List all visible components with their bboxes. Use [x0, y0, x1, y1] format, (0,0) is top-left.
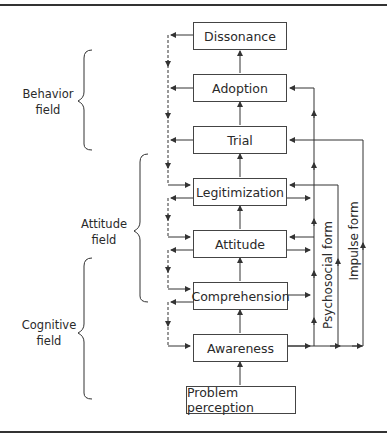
- behavior-field-line2: field: [18, 102, 78, 118]
- attitude-field-line2: field: [76, 232, 132, 248]
- stage-awareness: Awareness: [193, 334, 288, 362]
- impulse-form-label: Impulse form: [347, 201, 363, 281]
- stage-comprehension: Comprehension: [193, 282, 288, 310]
- stage-trial: Trial: [193, 126, 287, 154]
- stage-attitude: Attitude: [193, 230, 287, 258]
- attitude-field-label: Attitude field: [76, 216, 132, 248]
- cognitive-field-line1: Cognitive: [18, 317, 80, 333]
- stage-dissonance: Dissonance: [193, 22, 287, 50]
- cognitive-field-line2: field: [18, 333, 80, 349]
- stage-problem-perception: Problem perception: [186, 386, 296, 414]
- psychosocial-form-label: Psychosocial form: [321, 220, 337, 330]
- stage-legitimization: Legitimization: [193, 178, 287, 206]
- stage-adoption: Adoption: [193, 74, 287, 102]
- cognitive-field-label: Cognitive field: [18, 317, 80, 349]
- behavior-field-line1: Behavior: [18, 86, 78, 102]
- behavior-field-label: Behavior field: [18, 86, 78, 118]
- attitude-field-line1: Attitude: [76, 216, 132, 232]
